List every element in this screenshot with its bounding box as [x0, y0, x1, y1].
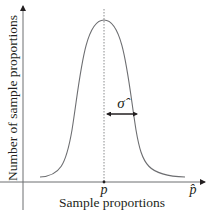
x-axis-label: Sample proportions [59, 195, 165, 210]
x-axis-end-label: p̂ [189, 182, 197, 197]
spread-label: σ̂ [117, 95, 130, 111]
sampling-distribution-diagram: σ̂ p p̂ Sample proportions Number of sam… [0, 0, 210, 210]
bell-curve [40, 20, 185, 177]
y-axis-label: Number of sample proportions [5, 15, 20, 181]
